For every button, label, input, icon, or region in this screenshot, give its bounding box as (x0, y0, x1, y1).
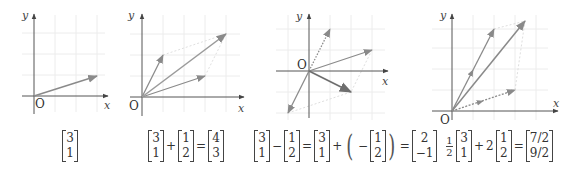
matrix-entry: 2 (288, 146, 296, 161)
matrix-entry: 9/2 (530, 146, 549, 161)
y-label: y (439, 9, 447, 22)
fraction-coefficient: 1 2 (446, 135, 453, 158)
matrix-entry: 3 (258, 131, 266, 146)
matrix-entry: 3 (212, 146, 220, 161)
equals-sign: = (194, 139, 208, 153)
equals-sign: = (398, 139, 412, 153)
equals-sign: = (512, 139, 526, 153)
matrix-b: 1 2 (284, 130, 300, 162)
parallelogram-guides (494, 21, 525, 90)
equation-linear-combination: 1 2 3 1 + 2 1 2 = 7/2 9/2 (446, 130, 553, 162)
equation-addition: 3 1 + 1 2 = 4 3 (148, 130, 224, 162)
diagram-subtraction: y x O (276, 10, 389, 120)
matrix-entry: 1 (66, 146, 74, 161)
x-label: x (104, 99, 111, 112)
vector-a (34, 76, 97, 96)
minus-sign: − (270, 139, 284, 153)
equation-subtraction: 3 1 − 1 2 = 3 1 + ( − 1 2 ) = 2 −1 (254, 130, 437, 162)
matrix-entry: 1 (460, 146, 468, 161)
matrix-b: 1 2 (496, 130, 512, 162)
plus-sign: + (164, 139, 178, 153)
matrix-a: 3 1 (148, 130, 164, 162)
y-label: y (21, 9, 29, 22)
origin-label: O (297, 58, 307, 72)
matrix-entry: 3 (152, 131, 160, 146)
diagram-addition: y x O (127, 9, 245, 116)
fraction-denominator: 2 (446, 147, 452, 158)
x-label: x (553, 97, 560, 110)
matrix-result: 2 −1 (412, 130, 438, 162)
matrix-entry: 3 (460, 131, 468, 146)
fraction-numerator: 1 (446, 135, 452, 146)
origin-label: O (35, 97, 45, 111)
matrix-entry: 4 (212, 131, 220, 146)
vector-combination (452, 21, 525, 111)
matrix-entry: 1 (258, 146, 266, 161)
y-label: y (127, 9, 135, 22)
matrix-entry: 1 (374, 131, 382, 146)
matrix-entry: 1 (500, 131, 508, 146)
matrix-entry: 2 (182, 146, 190, 161)
matrix-a: 3 1 (62, 130, 78, 162)
matrix-entry: 3 (318, 131, 326, 146)
matrix-b: 1 2 (178, 130, 194, 162)
equals-sign: = (300, 139, 314, 153)
scalar-coefficient: 2 (486, 139, 496, 153)
matrix-a: 3 1 (314, 130, 330, 162)
matrix-entry: 1 (182, 131, 190, 146)
matrix-entry: 7/2 (530, 131, 549, 146)
matrix-a: 3 1 (456, 130, 472, 162)
matrix-b: 1 2 (370, 130, 386, 162)
matrix-entry: −1 (416, 146, 434, 161)
origin-label: O (129, 99, 139, 113)
plus-sign: + (472, 139, 486, 153)
matrix-result: 7/2 9/2 (526, 130, 553, 162)
matrix-entry: 1 (318, 146, 326, 161)
left-paren: ( (347, 131, 354, 161)
x-label: x (382, 75, 389, 88)
grid (432, 15, 548, 120)
plus-sign: + (330, 139, 344, 153)
matrix-entry: 2 (421, 131, 429, 146)
origin-label: O (440, 113, 450, 127)
equation-vector: 3 1 (62, 130, 78, 162)
matrix-result: 4 3 (208, 130, 224, 162)
y-label: y (295, 10, 303, 23)
matrix-entry: 2 (500, 146, 508, 161)
right-paren: ) (388, 131, 395, 161)
matrix-entry: 1 (288, 131, 296, 146)
matrix-entry: 3 (66, 131, 74, 146)
matrix-entry: 1 (152, 146, 160, 161)
matrix-a: 3 1 (254, 130, 270, 162)
diagram-vector: y x O (21, 9, 111, 114)
negation-sign: − (356, 139, 370, 153)
matrix-entry: 2 (374, 146, 382, 161)
diagram-linear-combination: y x O (432, 9, 560, 127)
x-label: x (238, 102, 245, 115)
